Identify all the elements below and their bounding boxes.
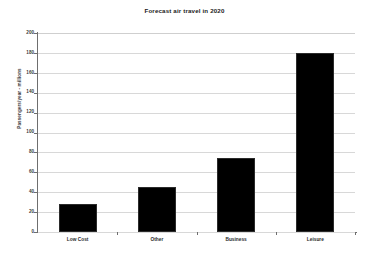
- plot-area: [38, 33, 355, 232]
- y-tick-label: 140: [18, 90, 34, 95]
- x-tick-mark: [197, 232, 198, 235]
- y-tick-mark: [34, 192, 37, 193]
- y-tick-label: 60: [18, 170, 34, 175]
- bar-other: [138, 187, 176, 232]
- y-tick-mark: [34, 93, 37, 94]
- x-tick-label: Other: [117, 238, 197, 243]
- y-tick-label: 180: [18, 51, 34, 56]
- y-tick-label: 0: [18, 230, 34, 235]
- y-tick-mark: [34, 113, 37, 114]
- bar-leisure: [296, 53, 334, 232]
- y-tick-mark: [34, 73, 37, 74]
- y-tick-label: 40: [18, 190, 34, 195]
- y-tick-mark: [34, 33, 37, 34]
- x-tick-label: Low Cost: [38, 238, 118, 243]
- x-tick-mark: [117, 232, 118, 235]
- x-tick-label: Business: [196, 238, 276, 243]
- y-tick-label: 120: [18, 110, 34, 115]
- y-tick-label: 100: [18, 130, 34, 135]
- bar-low-cost: [59, 204, 97, 232]
- x-tick-mark: [355, 232, 356, 235]
- y-tick-mark: [34, 232, 37, 233]
- x-tick-mark: [276, 232, 277, 235]
- x-tick-label: Leisure: [275, 238, 355, 243]
- y-tick-mark: [34, 53, 37, 54]
- y-tick-label: 160: [18, 71, 34, 76]
- y-tick-mark: [34, 133, 37, 134]
- y-tick-mark: [34, 212, 37, 213]
- y-tick-mark: [34, 152, 37, 153]
- gridline: [38, 33, 355, 34]
- y-tick-label: 80: [18, 150, 34, 155]
- y-tick-label: 20: [18, 210, 34, 215]
- bar-business: [217, 158, 255, 232]
- y-tick-mark: [34, 172, 37, 173]
- y-tick-label: 200: [18, 31, 34, 36]
- chart-page: Forecast air travel in 2020 Passengers/y…: [0, 0, 369, 264]
